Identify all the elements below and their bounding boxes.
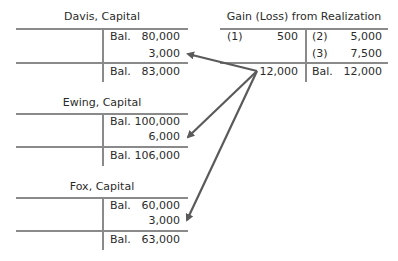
arrow-to-ewing-icon: [188, 71, 257, 137]
arrow-to-fox-icon: [187, 71, 257, 220]
allocation-arrows: [0, 0, 398, 261]
arrow-to-davis-icon: [188, 54, 257, 71]
